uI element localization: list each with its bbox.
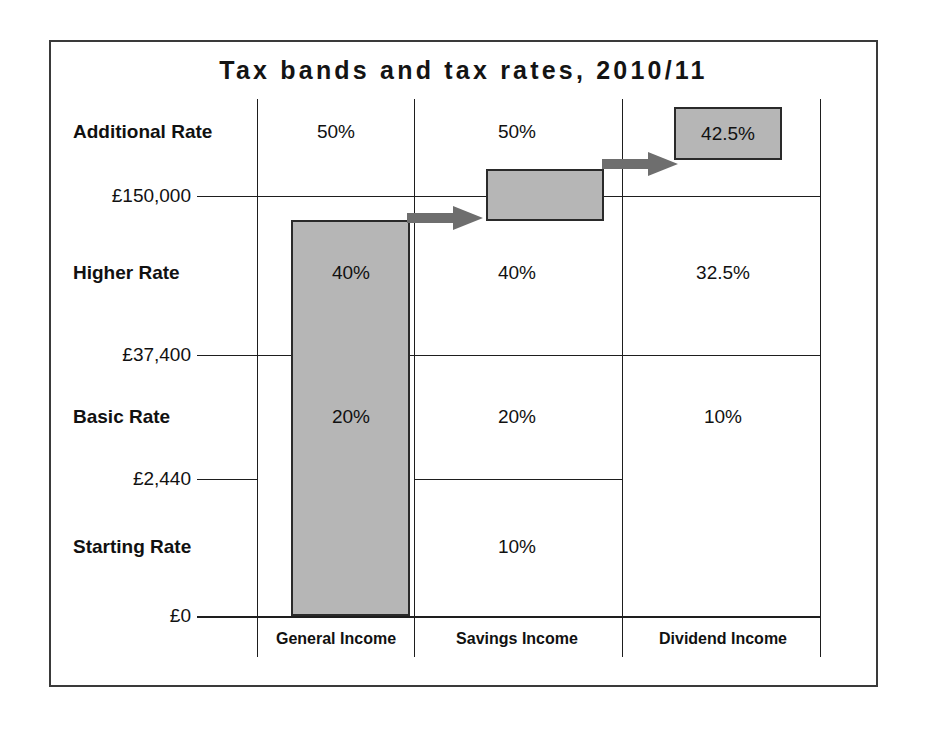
general-higher-rate-value: 40%	[332, 262, 370, 284]
column-divider-savings-dividend	[622, 99, 623, 657]
axis-tick-label-2440: £2,440	[51, 468, 191, 490]
dividend-higher-rate-value: 32.5%	[696, 262, 750, 284]
axis-tick-label-150000: £150,000	[51, 185, 191, 207]
figure-frame: Tax bands and tax rates, 2010/11 £150,00…	[49, 40, 878, 687]
dividend-basic-rate-value: 10%	[704, 406, 742, 428]
band-label-starting-rate: Starting Rate	[73, 536, 191, 558]
band-label-additional-rate: Additional Rate	[73, 121, 212, 143]
axis-tick-label-0: £0	[51, 605, 191, 627]
arrow-general-to-savings-icon	[407, 205, 483, 231]
band-label-basic-rate: Basic Rate	[73, 406, 170, 428]
savings-additional-rate-value: 50%	[498, 121, 536, 143]
dividend-additional-rate-value: 42.5%	[676, 123, 780, 145]
gridline-2440-savings	[414, 479, 623, 480]
savings-starting-rate-value: 10%	[498, 536, 536, 558]
column-caption-savings-income: Savings Income	[456, 630, 578, 648]
general-additional-rate-value: 50%	[317, 121, 355, 143]
column-caption-dividend-income: Dividend Income	[659, 630, 787, 648]
gridline-baseline-zero	[197, 616, 820, 618]
column-divider-right-edge	[820, 99, 821, 657]
column-caption-general-income: General Income	[276, 630, 396, 648]
axis-tick-label-37400: £37,400	[51, 344, 191, 366]
gridline-2440-left	[197, 479, 258, 480]
savings-basic-rate-value: 20%	[498, 406, 536, 428]
column-divider-general-savings	[414, 99, 415, 657]
column-divider-axis	[257, 99, 258, 657]
general-basic-rate-value: 20%	[332, 406, 370, 428]
band-label-higher-rate: Higher Rate	[73, 262, 180, 284]
arrow-savings-to-dividend-icon	[602, 151, 678, 177]
chart-plot-area: £150,000 £37,400 £2,440 £0 Additional Ra…	[51, 42, 880, 689]
savings-income-bar	[486, 169, 604, 221]
dividend-income-additional-box: 42.5%	[674, 107, 782, 160]
savings-higher-rate-value: 40%	[498, 262, 536, 284]
